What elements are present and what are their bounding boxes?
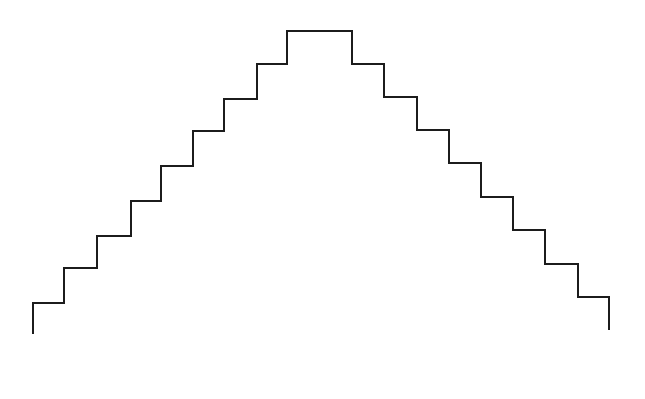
- drawing-canvas: [0, 0, 645, 399]
- staircase-figure: [0, 0, 645, 399]
- canvas-background: [0, 0, 645, 399]
